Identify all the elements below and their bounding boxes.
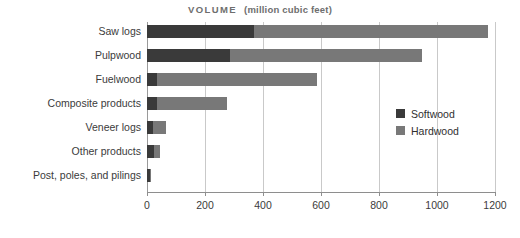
legend-label: Softwood [411, 108, 455, 120]
category-label: Other products [0, 145, 141, 158]
bar-row[interactable] [147, 25, 488, 38]
category-label: Post, poles, and pilings [0, 169, 141, 182]
bar-segment-softwood[interactable] [147, 145, 154, 158]
category-label: Fuelwood [0, 73, 141, 86]
bar-segment-softwood[interactable] [147, 73, 157, 86]
x-tick-label: 1200 [483, 199, 506, 211]
bar-segment-hardwood[interactable] [154, 145, 160, 158]
x-tick-200 [205, 192, 206, 196]
category-axis-labels: Saw logsPulpwoodFuelwoodComposite produc… [0, 22, 141, 192]
legend-item[interactable]: Softwood [396, 106, 459, 121]
x-tick-label: 400 [254, 199, 272, 211]
gridline-1200 [495, 22, 496, 192]
bar-row[interactable] [147, 169, 151, 182]
bar-segment-hardwood[interactable] [157, 73, 317, 86]
bar-segment-hardwood[interactable] [254, 25, 487, 38]
legend-label: Hardwood [411, 125, 459, 137]
category-label: Composite products [0, 97, 141, 110]
bar-segment-hardwood[interactable] [157, 97, 227, 110]
legend-item[interactable]: Hardwood [396, 123, 459, 138]
x-tick-800 [379, 192, 380, 196]
category-label: Veneer logs [0, 121, 141, 134]
stacked-bar-chart: VOLUME (million cubic feet) Saw logsPulp… [0, 0, 520, 238]
bar-row[interactable] [147, 145, 160, 158]
x-tick-400 [263, 192, 264, 196]
x-tick-1000 [437, 192, 438, 196]
x-tick-0 [147, 192, 148, 196]
bar-row[interactable] [147, 49, 422, 62]
x-tick-label: 0 [144, 199, 150, 211]
x-tick-label: 1000 [425, 199, 448, 211]
bar-segment-hardwood[interactable] [230, 49, 423, 62]
bar-segment-hardwood[interactable] [150, 169, 151, 182]
bar-segment-softwood[interactable] [147, 25, 254, 38]
x-tick-1200 [495, 192, 496, 196]
hardwood-swatch-icon [396, 126, 405, 135]
bar-segment-softwood[interactable] [147, 49, 230, 62]
x-tick-label: 800 [370, 199, 388, 211]
x-tick-600 [321, 192, 322, 196]
chart-legend: SoftwoodHardwood [396, 106, 459, 140]
bar-row[interactable] [147, 121, 166, 134]
chart-title-main: VOLUME [188, 4, 237, 15]
category-label: Saw logs [0, 25, 141, 38]
bar-row[interactable] [147, 73, 317, 86]
category-label: Pulpwood [0, 49, 141, 62]
bar-row[interactable] [147, 97, 227, 110]
x-tick-label: 600 [312, 199, 330, 211]
bar-segment-softwood[interactable] [147, 97, 157, 110]
x-tick-label: 200 [196, 199, 214, 211]
softwood-swatch-icon [396, 109, 405, 118]
bar-segment-hardwood[interactable] [153, 121, 166, 134]
chart-title: VOLUME (million cubic feet) [0, 4, 520, 15]
chart-title-unit: (million cubic feet) [244, 4, 332, 15]
